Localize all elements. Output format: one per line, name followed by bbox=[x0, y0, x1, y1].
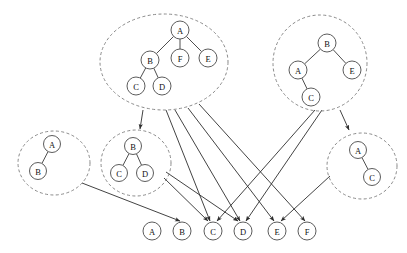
tree-edge bbox=[156, 36, 173, 53]
tree-node-a[interactable]: A bbox=[350, 142, 367, 159]
tree-node-e[interactable]: E bbox=[199, 49, 217, 67]
node-label: C bbox=[369, 173, 375, 183]
node-label: A bbox=[355, 146, 362, 156]
node-label: D bbox=[159, 82, 165, 92]
node-label: A bbox=[149, 227, 156, 237]
edge-topright-to-D bbox=[246, 110, 322, 221]
tree-node-b[interactable]: B bbox=[141, 51, 159, 69]
bottom-node-a[interactable]: A bbox=[143, 222, 161, 240]
bottom-node-f[interactable]: F bbox=[298, 222, 316, 240]
tree-edge bbox=[302, 78, 307, 89]
node-label: A bbox=[49, 140, 56, 150]
tree-node-e[interactable]: E bbox=[343, 61, 361, 79]
node-label: A bbox=[295, 66, 302, 76]
tree-edge bbox=[305, 49, 321, 64]
tree-edge bbox=[186, 36, 201, 51]
tree-node-d[interactable]: D bbox=[137, 165, 154, 182]
diagram-canvas: ABFECDBAECABBCDAC ABCDEF bbox=[0, 0, 407, 253]
node-label: C bbox=[116, 169, 122, 179]
node-label: C bbox=[210, 227, 216, 237]
node-label: B bbox=[324, 39, 330, 49]
edge-midright-to-E bbox=[281, 176, 330, 221]
tree-edge bbox=[123, 154, 129, 166]
top-right-tree-cluster[interactable]: BAEC bbox=[273, 15, 367, 111]
tree-node-b[interactable]: B bbox=[125, 138, 142, 155]
tree-edge bbox=[362, 158, 368, 170]
bottom-nodes-layer: ABCDEF bbox=[143, 222, 316, 240]
node-label: A bbox=[177, 26, 184, 36]
node-label: B bbox=[147, 56, 153, 66]
tree-node-a[interactable]: A bbox=[171, 21, 189, 39]
tree-edge bbox=[140, 68, 145, 78]
tree-node-f[interactable]: F bbox=[171, 49, 189, 67]
node-label: B bbox=[35, 167, 41, 177]
tree-edge bbox=[154, 68, 158, 78]
bottom-node-b[interactable]: B bbox=[173, 222, 191, 240]
tree-node-a[interactable]: A bbox=[44, 136, 61, 153]
tree-node-b[interactable]: B bbox=[30, 163, 47, 180]
node-label: D bbox=[142, 169, 148, 179]
tree-edge bbox=[333, 50, 346, 64]
tree-node-c[interactable]: C bbox=[364, 169, 381, 186]
tree-node-d[interactable]: D bbox=[153, 77, 171, 95]
edge-topleft-to-D bbox=[175, 110, 240, 221]
bottom-node-c[interactable]: C bbox=[204, 222, 222, 240]
node-label: D bbox=[240, 227, 246, 237]
top-left-tree-cluster[interactable]: ABFECD bbox=[100, 14, 228, 110]
tree-node-c[interactable]: C bbox=[302, 88, 320, 106]
node-label: E bbox=[349, 66, 354, 76]
tree-node-b[interactable]: B bbox=[318, 34, 336, 52]
node-label: E bbox=[205, 54, 210, 64]
mid-left-tree-cluster[interactable]: AB bbox=[18, 131, 90, 195]
tree-node-a[interactable]: A bbox=[289, 61, 307, 79]
tree-edge bbox=[42, 152, 48, 164]
node-label: B bbox=[179, 227, 185, 237]
tree-node-c[interactable]: C bbox=[111, 165, 128, 182]
node-label: C bbox=[308, 93, 314, 103]
mid-center-tree-cluster[interactable]: BCD bbox=[101, 130, 171, 196]
mid-right-tree-cluster[interactable]: AC bbox=[327, 133, 397, 199]
bottom-node-d[interactable]: D bbox=[234, 222, 252, 240]
node-label: F bbox=[178, 54, 183, 64]
node-label: E bbox=[274, 227, 279, 237]
bottom-node-e[interactable]: E bbox=[268, 222, 286, 240]
node-label: C bbox=[133, 82, 139, 92]
diagram-svg: ABFECDBAECABBCDAC ABCDEF bbox=[0, 0, 407, 253]
tree-edge bbox=[136, 154, 141, 165]
edge-midleft-to-B bbox=[82, 183, 180, 221]
edge-topleft-to-E bbox=[188, 108, 274, 221]
edge-midcenter-to-D bbox=[166, 172, 238, 221]
edge-topright-to-midright bbox=[340, 110, 349, 130]
edge-topleft-to-midcenter bbox=[140, 110, 143, 129]
edge-topleft-to-C bbox=[166, 110, 210, 221]
tree-node-c[interactable]: C bbox=[127, 77, 145, 95]
clusters-layer: ABFECDBAECABBCDAC bbox=[18, 14, 397, 199]
edge-topleft-to-F bbox=[199, 104, 305, 221]
mapping-edges-layer bbox=[82, 104, 349, 221]
node-label: F bbox=[305, 227, 310, 237]
node-label: B bbox=[130, 142, 136, 152]
